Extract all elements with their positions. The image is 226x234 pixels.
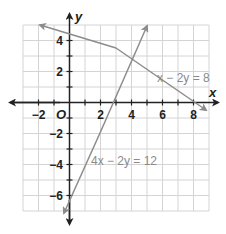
y-tick-neg4: −4 bbox=[49, 158, 63, 172]
x-tick-8: 8 bbox=[190, 108, 197, 122]
equation-label-2: 4x − 2y = 12 bbox=[91, 154, 157, 168]
grid bbox=[23, 25, 209, 211]
y-tick-2: 2 bbox=[56, 65, 63, 79]
y-tick-neg6: −6 bbox=[49, 189, 63, 203]
x-tick-neg2: −2 bbox=[32, 108, 46, 122]
x-tick-2: 2 bbox=[97, 108, 104, 122]
y-tick-4: 4 bbox=[56, 34, 63, 48]
coordinate-plane: −2 2 4 6 8 4 2 −2 −4 −6 O x y x − 2y = 8… bbox=[0, 0, 226, 234]
line-4x-minus-2y-eq-12 bbox=[100, 26, 147, 133]
equation-label-1: x − 2y = 8 bbox=[157, 71, 210, 85]
y-tick-neg2: −2 bbox=[49, 127, 63, 141]
origin-label: O bbox=[56, 107, 66, 122]
x-axis-label: x bbox=[208, 85, 217, 100]
line-x-minus-2y-eq-8 bbox=[40, 25, 116, 48]
x-tick-6: 6 bbox=[159, 108, 166, 122]
x-tick-4: 4 bbox=[128, 108, 135, 122]
y-axis-label: y bbox=[74, 9, 83, 24]
